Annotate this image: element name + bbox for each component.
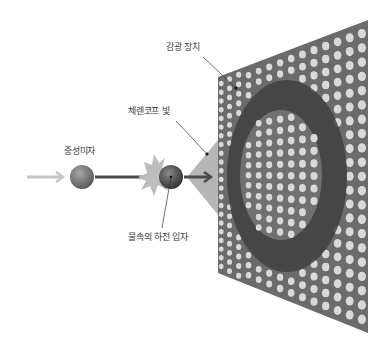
photomultiplier-dot [277, 138, 283, 145]
photomultiplier-dot [358, 86, 366, 95]
photomultiplier-dot [219, 264, 224, 269]
photomultiplier-dot [299, 148, 306, 156]
photomultiplier-dot [246, 192, 252, 198]
photomultiplier-dot [346, 186, 354, 195]
photomultiplier-dot [288, 149, 295, 157]
photomultiplier-dot [322, 276, 329, 285]
photomultiplier-dot [256, 276, 262, 283]
photomultiplier-dot [346, 269, 354, 278]
photomultiplier-dot [266, 194, 272, 201]
photomultiplier-dot [346, 158, 354, 167]
photomultiplier-dot [299, 63, 306, 71]
photomultiplier-dot [227, 268, 232, 274]
photomultiplier-dot [334, 293, 342, 302]
photomultiplier-dot [346, 116, 354, 125]
photomultiplier-dot [288, 289, 295, 297]
photomultiplier-dot [236, 100, 241, 106]
photomultiplier-dot [346, 130, 354, 139]
photomultiplier-dot [246, 72, 252, 78]
photomultiplier-dot [310, 172, 317, 180]
photomultiplier-dot [346, 255, 354, 264]
photomultiplier-dot [277, 172, 283, 179]
photomultiplier-dot [277, 206, 283, 213]
photomultiplier-dot [277, 228, 283, 235]
photomultiplier-dot [288, 172, 295, 180]
photomultiplier-dot [346, 89, 354, 98]
photomultiplier-dot [227, 223, 232, 229]
photomultiplier-dot [322, 68, 329, 77]
photomultiplier-dot [266, 150, 272, 157]
photomultiplier-dot [358, 286, 366, 295]
photomultiplier-dot [266, 172, 272, 179]
photomultiplier-dot [346, 33, 354, 42]
photomultiplier-dot [299, 293, 306, 301]
photomultiplier-dot [219, 81, 224, 86]
photomultiplier-dot [358, 200, 366, 209]
photomultiplier-dot [256, 182, 262, 189]
photomultiplier-dot [334, 37, 342, 46]
photomultiplier-dot [219, 177, 224, 182]
photodetector-leader-dot [234, 86, 237, 89]
photomultiplier-dot [219, 89, 224, 94]
photomultiplier-dot [288, 125, 295, 133]
photomultiplier-dot [219, 211, 224, 216]
photomultiplier-dot [256, 193, 262, 200]
label-charged-particle: 물속의 하전 입자 [128, 230, 188, 243]
photomultiplier-dot [288, 160, 295, 168]
photomultiplier-dot [334, 239, 342, 248]
photomultiplier-dot [227, 104, 232, 110]
photomultiplier-dot [266, 74, 272, 81]
photomultiplier-dot [358, 72, 366, 81]
photomultiplier-dot [266, 281, 272, 288]
photomultiplier-dot [358, 143, 366, 152]
photomultiplier-dot [256, 78, 262, 85]
photomultiplier-dot [299, 135, 306, 143]
photomultiplier-dot [310, 134, 317, 142]
photomultiplier-dot [256, 130, 262, 137]
photomultiplier-dot [256, 141, 262, 148]
photomultiplier-dot [256, 224, 262, 231]
photomultiplier-dot [310, 147, 317, 155]
photomultiplier-dot [310, 272, 317, 280]
photomultiplier-dot [219, 246, 224, 251]
photomultiplier-dot [299, 75, 306, 83]
photomultiplier-dot [227, 241, 232, 247]
photomultiplier-dot [246, 182, 252, 188]
photomultiplier-dot [288, 55, 295, 63]
cherenkov-leader [176, 121, 207, 154]
photomultiplier-dot [334, 51, 342, 60]
photomultiplier-dot [219, 168, 224, 173]
photomultiplier-dot [266, 215, 272, 222]
photomultiplier-dot [310, 298, 317, 306]
photomultiplier-dot [277, 274, 283, 281]
photomultiplier-dot [334, 78, 342, 87]
photomultiplier-dot [277, 217, 283, 224]
photomultiplier-dot [277, 161, 283, 168]
photomultiplier-dot [288, 195, 295, 203]
photomultiplier-dot [227, 250, 232, 256]
photomultiplier-dot [266, 205, 272, 212]
photomultiplier-dot [236, 81, 241, 87]
photomultiplier-dot [299, 50, 306, 58]
photomultiplier-dot [219, 220, 224, 225]
photomultiplier-dot [266, 118, 272, 125]
photomultiplier-dot [334, 306, 342, 315]
photomultiplier-dot [227, 76, 232, 82]
photomultiplier-dot [256, 151, 262, 158]
photomultiplier-dot [236, 273, 241, 279]
photomultiplier-dot [236, 72, 241, 78]
photomultiplier-dot [346, 213, 354, 222]
photomultiplier-dot [346, 102, 354, 111]
photomultiplier-dot [277, 195, 283, 202]
photomultiplier-dot [299, 196, 306, 204]
photomultiplier-dot [266, 226, 272, 233]
photomultiplier-dot [246, 142, 252, 148]
photomultiplier-dot [266, 63, 272, 70]
photomultiplier-dot [346, 227, 354, 236]
photomultiplier-dot [299, 172, 306, 180]
photomultiplier-dot [358, 100, 366, 109]
photomultiplier-dot [346, 75, 354, 84]
photomultiplier-dot [334, 279, 342, 288]
photomultiplier-dot [334, 91, 342, 100]
photomultiplier-dot [219, 116, 224, 121]
